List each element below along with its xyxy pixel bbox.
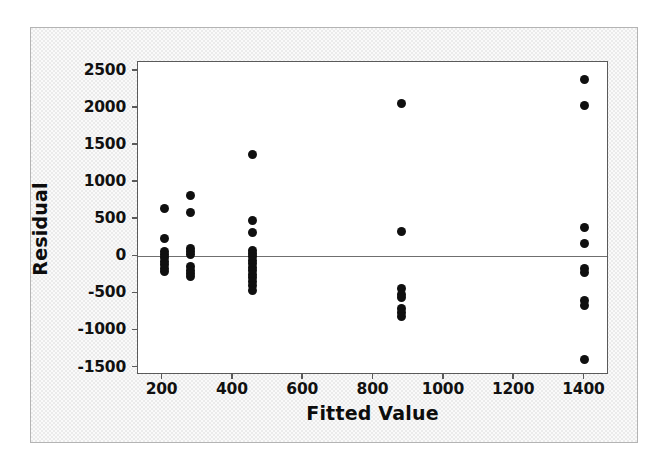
data-point [160,267,169,276]
x-tick-label: 1000 [413,380,473,398]
y-tick-mark [132,106,137,108]
data-point [580,239,589,248]
x-tick-mark [372,374,374,379]
x-tick-label: 200 [132,380,192,398]
data-point [248,286,257,295]
y-tick-label: -1000 [56,320,126,338]
data-point [186,272,195,281]
x-tick-mark [161,374,163,379]
y-tick-mark [132,143,137,145]
data-point [397,99,406,108]
plot-area [138,62,607,373]
data-point [580,355,589,364]
x-tick-label: 1200 [483,380,543,398]
zero-reference-line [138,256,607,257]
plot-frame [137,61,608,374]
x-tick-label: 1400 [553,380,613,398]
data-point [397,312,406,321]
residual-plot-figure: 25002000150010005000-500-1000-1500200400… [0,0,669,461]
x-tick-label: 800 [343,380,403,398]
x-tick-mark [512,374,514,379]
y-tick-mark [132,69,137,71]
x-tick-mark [442,374,444,379]
data-point [248,150,257,159]
data-point [580,268,589,277]
y-tick-mark [132,366,137,368]
data-point [580,301,589,310]
data-point [160,204,169,213]
data-point [248,216,257,225]
y-tick-mark [132,255,137,257]
y-tick-label: 1500 [56,135,126,153]
x-tick-label: 600 [272,380,332,398]
x-axis-label: Fitted Value [137,402,608,424]
data-point [186,191,195,200]
data-point [580,223,589,232]
data-point [580,101,589,110]
y-tick-label: 2500 [56,61,126,79]
data-point [186,208,195,217]
y-tick-label: 1000 [56,172,126,190]
x-tick-mark [231,374,233,379]
x-tick-mark [583,374,585,379]
x-tick-label: 400 [202,380,262,398]
data-point [160,234,169,243]
y-tick-mark [132,180,137,182]
data-point [248,228,257,237]
data-point [397,227,406,236]
y-tick-label: 500 [56,209,126,227]
data-point [186,250,195,259]
y-tick-mark [132,329,137,331]
y-tick-mark [132,217,137,219]
y-tick-mark [132,292,137,294]
x-tick-mark [301,374,303,379]
data-point [580,75,589,84]
y-tick-label: -500 [56,283,126,301]
y-tick-label: 2000 [56,98,126,116]
y-axis-label: Residual [29,129,51,329]
data-point [397,293,406,302]
y-tick-label: 0 [56,246,126,264]
y-tick-label: -1500 [56,358,126,376]
